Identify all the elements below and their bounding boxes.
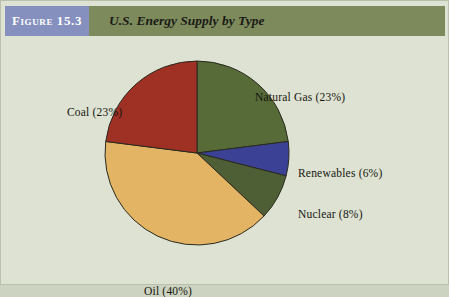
pie-chart — [1, 36, 449, 286]
pie-label-oil: Oil (40%) — [144, 285, 192, 297]
pie-chart-area: Natural Gas (23%) Coal (23%) Renewables … — [1, 36, 449, 286]
figure-number-label: Figure 15.3 — [12, 13, 82, 29]
figure-header-band: Figure 15.3 U.S. Energy Supply by Type — [5, 6, 445, 36]
figure-number-badge: Figure 15.3 — [5, 6, 89, 36]
pie-slice-natural-gas — [197, 61, 288, 153]
pie-label-renewables: Renewables (6%) — [298, 167, 382, 179]
figure-title: U.S. Energy Supply by Type — [109, 6, 265, 36]
pie-slice-group — [105, 61, 289, 245]
pie-label-nuclear: Nuclear (8%) — [298, 208, 363, 220]
pie-label-coal: Coal (23%) — [67, 106, 122, 118]
pie-label-natural-gas: Natural Gas (23%) — [255, 91, 345, 103]
